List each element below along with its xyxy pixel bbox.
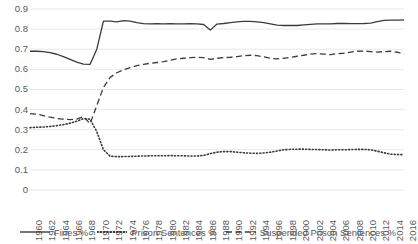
y-axis-tick-label: 0.5 bbox=[0, 84, 28, 94]
legend-swatch-dotted bbox=[97, 228, 127, 236]
y-axis-tick-label: 0.8 bbox=[0, 24, 28, 34]
plot-area bbox=[30, 9, 404, 190]
y-axis-tick-label: 0.9 bbox=[0, 4, 28, 14]
y-axis-tick-label: 0.6 bbox=[0, 64, 28, 74]
series-line bbox=[30, 119, 404, 157]
y-axis-tick-label: 0.4 bbox=[0, 105, 28, 115]
series-line bbox=[30, 51, 404, 124]
chart-legend: Fines %Prison Sentences %Suspended Priso… bbox=[0, 223, 416, 241]
y-axis: 0.90.80.70.60.50.40.30.20.10 bbox=[0, 0, 28, 200]
x-axis: 1960196219641966196819701972197419761978… bbox=[30, 190, 404, 224]
y-axis-tick-label: 0.2 bbox=[0, 145, 28, 155]
legend-item[interactable]: Prison Sentences % bbox=[97, 227, 217, 238]
y-axis-tick-label: 0.3 bbox=[0, 125, 28, 135]
legend-label: Fines % bbox=[54, 227, 88, 238]
legend-swatch-dashed bbox=[226, 228, 256, 236]
y-axis-tick-label: 0 bbox=[0, 185, 28, 195]
series-group bbox=[30, 20, 404, 157]
legend-label: Suspended Prison Sentences % bbox=[260, 227, 396, 238]
legend-label: Prison Sentences % bbox=[131, 227, 217, 238]
plot-svg bbox=[30, 9, 404, 190]
y-axis-tick-label: 0.7 bbox=[0, 44, 28, 54]
gridlines bbox=[30, 9, 404, 190]
y-axis-tick-label: 0.1 bbox=[0, 165, 28, 175]
legend-item[interactable]: Fines % bbox=[20, 227, 88, 238]
series-line bbox=[30, 20, 404, 64]
legend-swatch-solid bbox=[20, 228, 50, 236]
legend-item[interactable]: Suspended Prison Sentences % bbox=[226, 227, 396, 238]
